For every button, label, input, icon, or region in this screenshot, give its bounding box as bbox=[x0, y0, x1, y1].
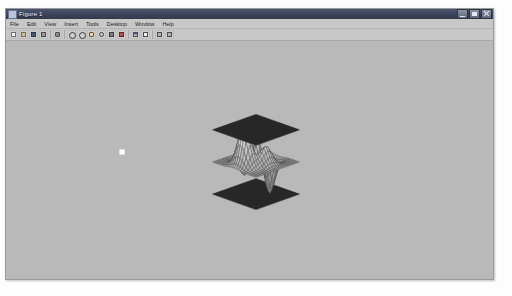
zoom-out-icon-glyph bbox=[79, 32, 86, 39]
close-button[interactable] bbox=[481, 9, 492, 19]
data-cursor-icon-glyph bbox=[109, 32, 114, 37]
data-cursor-marker bbox=[119, 149, 125, 155]
zoom-out-icon[interactable] bbox=[77, 30, 86, 39]
new-figure-icon[interactable] bbox=[9, 30, 18, 39]
toolbar-separator bbox=[151, 30, 154, 39]
zoom-in-icon[interactable] bbox=[67, 30, 76, 39]
toolbar-separator bbox=[63, 30, 66, 39]
show-plot-tools-icon[interactable] bbox=[165, 30, 174, 39]
menu-item-help[interactable]: Help bbox=[162, 21, 175, 27]
figure-window: Figure 1 File Edit View Insert Tools Des… bbox=[5, 8, 494, 280]
maximize-button[interactable] bbox=[469, 9, 480, 19]
menu-item-file[interactable]: File bbox=[9, 21, 20, 27]
new-figure-icon-glyph bbox=[11, 32, 16, 37]
title-bar[interactable]: Figure 1 bbox=[6, 9, 493, 19]
pan-icon[interactable] bbox=[87, 30, 96, 39]
figure-canvas[interactable] bbox=[6, 41, 493, 279]
menu-item-edit[interactable]: Edit bbox=[26, 21, 37, 27]
zoom-in-icon-glyph bbox=[69, 32, 76, 39]
save-figure-icon[interactable] bbox=[29, 30, 38, 39]
rotate-3d-icon[interactable] bbox=[97, 30, 106, 39]
toolbar-separator bbox=[49, 30, 52, 39]
open-file-icon-glyph bbox=[21, 32, 26, 37]
show-plot-tools-icon-glyph bbox=[167, 32, 172, 37]
rotate-3d-icon-glyph bbox=[99, 32, 104, 37]
hide-plot-tools-icon-glyph bbox=[157, 32, 162, 37]
hide-plot-tools-icon[interactable] bbox=[155, 30, 164, 39]
menu-item-insert[interactable]: Insert bbox=[63, 21, 79, 27]
insert-legend-icon-glyph bbox=[143, 32, 148, 37]
save-figure-icon-glyph bbox=[31, 32, 36, 37]
open-file-icon[interactable] bbox=[19, 30, 28, 39]
menu-item-window[interactable]: Window bbox=[134, 21, 156, 27]
menu-item-desktop[interactable]: Desktop bbox=[106, 21, 128, 27]
window-title: Figure 1 bbox=[19, 11, 43, 18]
lower-plane bbox=[213, 179, 300, 210]
print-figure-icon-glyph bbox=[41, 32, 46, 37]
data-cursor-icon[interactable] bbox=[107, 30, 116, 39]
menu-bar: File Edit View Insert Tools Desktop Wind… bbox=[6, 19, 493, 29]
link-plot-icon[interactable] bbox=[53, 30, 62, 39]
menu-item-tools[interactable]: Tools bbox=[85, 21, 100, 27]
link-plot-icon-glyph bbox=[55, 32, 60, 37]
upper-plane bbox=[213, 114, 300, 145]
insert-colorbar-icon-glyph bbox=[133, 32, 138, 37]
pan-icon-glyph bbox=[89, 32, 94, 37]
brush-icon-glyph bbox=[119, 32, 124, 37]
figure-icon bbox=[8, 10, 17, 19]
toolbar-separator bbox=[127, 30, 130, 39]
surface-plot bbox=[6, 41, 493, 279]
tool-bar bbox=[6, 29, 493, 41]
minimize-button[interactable] bbox=[457, 9, 468, 19]
insert-legend-icon[interactable] bbox=[141, 30, 150, 39]
print-figure-icon[interactable] bbox=[39, 30, 48, 39]
screenshot-root: Figure 1 File Edit View Insert Tools Des… bbox=[0, 0, 512, 296]
brush-icon[interactable] bbox=[117, 30, 126, 39]
insert-colorbar-icon[interactable] bbox=[131, 30, 140, 39]
menu-item-view[interactable]: View bbox=[43, 21, 57, 27]
